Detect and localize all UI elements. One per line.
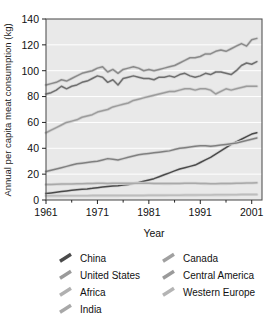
legend-label-india: India <box>80 304 102 315</box>
x-tick-label-1961: 1961 <box>34 206 58 218</box>
x-tick-label-2001: 2001 <box>240 206 264 218</box>
y-axis-title: Annual per capita meat consumption (kg) <box>2 23 13 196</box>
legend-item-africa[interactable]: Africa <box>60 287 106 298</box>
legend-label-central-america: Central America <box>183 270 255 281</box>
legend-swatch-central-america <box>163 271 174 278</box>
legend-label-united-states: United States <box>80 270 140 281</box>
legend-label-canada: Canada <box>183 253 218 264</box>
legend-swatch-canada <box>163 254 174 261</box>
x-axis-tick-labels: 19611971198119912001 <box>34 206 263 218</box>
y-tick-label-120: 120 <box>21 39 39 51</box>
x-tick-label-1991: 1991 <box>189 206 213 218</box>
legend-item-united-states[interactable]: United States <box>60 270 140 281</box>
legend-item-india[interactable]: India <box>60 304 102 315</box>
legend-item-canada[interactable]: Canada <box>163 253 218 264</box>
y-tick-label-80: 80 <box>27 90 39 102</box>
x-axis-title: Year <box>143 227 165 239</box>
y-tick-label-0: 0 <box>33 194 39 206</box>
y-tick-label-100: 100 <box>21 65 39 77</box>
legend-swatch-china <box>60 254 71 261</box>
legend-swatch-western-europe <box>163 288 174 295</box>
legend-item-china[interactable]: China <box>60 253 107 264</box>
y-tick-label-20: 20 <box>27 168 39 180</box>
y-tick-label-60: 60 <box>27 116 39 128</box>
y-axis-tick-labels: 020406080100120140 <box>21 13 39 206</box>
meat-consumption-line-chart: 020406080100120140 19611971198119912001 … <box>0 0 270 317</box>
legend-swatch-india <box>60 305 71 312</box>
x-tick-label-1981: 1981 <box>137 206 161 218</box>
x-tick-label-1971: 1971 <box>86 206 110 218</box>
y-tick-label-140: 140 <box>21 13 39 25</box>
legend-swatch-africa <box>60 288 71 295</box>
x-axis-ticks <box>46 200 252 204</box>
legend-label-africa: Africa <box>80 287 106 298</box>
legend-swatch-united-states <box>60 271 71 278</box>
legend-item-western-europe[interactable]: Western Europe <box>163 287 256 298</box>
legend-label-western-europe: Western Europe <box>183 287 256 298</box>
legend-label-china: China <box>80 253 107 264</box>
y-tick-label-40: 40 <box>27 142 39 154</box>
plot-background <box>46 19 262 200</box>
legend-item-central-america[interactable]: Central America <box>163 270 255 281</box>
chart-legend: ChinaUnited StatesAfricaIndiaCanadaCentr… <box>60 253 256 315</box>
